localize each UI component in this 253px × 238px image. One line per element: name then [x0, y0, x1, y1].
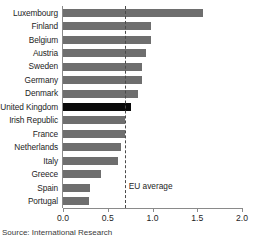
source-note: Source: International Research [2, 229, 112, 237]
category-label-sweden: Sweden [0, 60, 61, 73]
category-label-germany: Germany [0, 73, 61, 86]
bar-netherlands [63, 143, 121, 151]
bar-italy [63, 157, 118, 165]
bar-row [63, 73, 242, 86]
bar-row [63, 87, 242, 100]
category-label-united-kingdom: United Kingdom [0, 100, 61, 113]
category-label-belgium: Belgium [0, 33, 61, 46]
bar-row [63, 19, 242, 32]
bar-row [63, 168, 242, 181]
category-label-portugal: Portugal [0, 195, 61, 208]
bar-greece [63, 170, 101, 178]
category-label-denmark: Denmark [0, 87, 61, 100]
bar-france [63, 130, 125, 138]
bar-row [63, 195, 242, 208]
bar-sweden [63, 63, 142, 71]
bar-austria [63, 49, 146, 57]
bar-row [63, 141, 242, 154]
x-tick [63, 208, 64, 212]
bar-belgium [63, 36, 151, 44]
bar-row [63, 46, 242, 59]
bar-chart-figure: Luxembourg Finland Belgium Austria Swede… [0, 0, 253, 238]
category-label-finland: Finland [0, 19, 61, 32]
bar-row [63, 60, 242, 73]
bar-portugal [63, 197, 89, 205]
category-label-spain: Spain [0, 181, 61, 194]
bar-finland [63, 22, 151, 30]
eu-average-reference-line [125, 6, 126, 208]
x-tick [242, 208, 243, 212]
x-tick-label: 1.5 [191, 214, 203, 223]
category-label-austria: Austria [0, 46, 61, 59]
x-tick-label: 0.5 [102, 214, 114, 223]
x-tick [153, 208, 154, 212]
bar-denmark [63, 90, 138, 98]
category-label-netherlands: Netherlands [0, 141, 61, 154]
bar-row [63, 100, 242, 113]
bar-row [63, 33, 242, 46]
bar-irish-republic [63, 116, 125, 124]
x-tick-label: 0.0 [57, 214, 69, 223]
category-label-irish-republic: Irish Republic [0, 114, 61, 127]
bar-row [63, 6, 242, 19]
bar-spain [63, 184, 90, 192]
bar-row [63, 127, 242, 140]
x-tick-label: 2.0 [236, 214, 248, 223]
eu-average-label: EU average [129, 182, 173, 190]
plot-area: EU average [63, 6, 242, 208]
bar-row [63, 114, 242, 127]
bar-germany [63, 76, 142, 84]
x-tick [108, 208, 109, 212]
bar-united-kingdom [63, 103, 131, 111]
x-tick [197, 208, 198, 212]
bar-luxembourg [63, 9, 203, 17]
category-label-italy: Italy [0, 154, 61, 167]
x-tick-label: 1.0 [147, 214, 159, 223]
category-axis: Luxembourg Finland Belgium Austria Swede… [0, 6, 61, 208]
category-label-france: France [0, 127, 61, 140]
bar-row [63, 154, 242, 167]
category-label-luxembourg: Luxembourg [0, 6, 61, 19]
bars-group [63, 6, 242, 208]
category-label-greece: Greece [0, 168, 61, 181]
